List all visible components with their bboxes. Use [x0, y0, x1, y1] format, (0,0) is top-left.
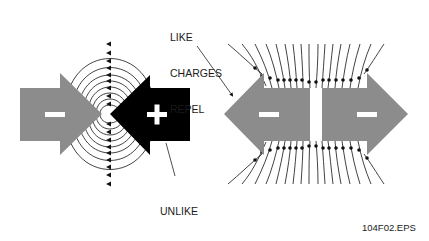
minus-sign-icon: [259, 112, 279, 117]
minus-sign-icon: [45, 112, 65, 117]
negative-charge-left: [20, 73, 102, 155]
minus-sign-icon: [357, 112, 377, 117]
unlike-callout-leader: [166, 143, 175, 176]
like-charges-callout: LIKE CHARGES REPEL: [170, 7, 222, 127]
figure-id-label: 104F02.EPS: [362, 222, 416, 233]
unlike-charges-callout: UNLIKE CHARGES ATTRACT: [160, 181, 212, 241]
